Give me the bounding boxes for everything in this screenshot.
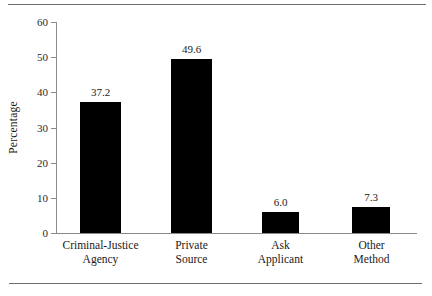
y-tick-label-0: 0 <box>43 228 49 239</box>
x-category-label-2: Ask Applicant <box>230 238 331 266</box>
bar-value-2: 6.0 <box>274 197 288 208</box>
y-axis-line <box>56 22 57 233</box>
bar-criminal-justice-agency: 37.2 <box>80 102 121 233</box>
x-category-label-0: Criminal-Justice Agency <box>50 238 151 266</box>
y-tick-label-20: 20 <box>37 157 48 168</box>
bar-value-1: 49.6 <box>182 44 201 55</box>
y-tick-label-60: 60 <box>37 17 48 28</box>
y-tick-label-10: 10 <box>37 192 48 203</box>
x-category-label-1: Private Source <box>141 238 242 266</box>
top-horizontal-rule <box>8 4 426 5</box>
x-category-line-2-1: Ask <box>230 238 331 252</box>
x-category-line-1-2: Source <box>141 252 242 266</box>
x-category-label-3: Other Method <box>321 238 422 266</box>
x-category-line-0-2: Agency <box>50 252 151 266</box>
bar-ask-applicant: 6.0 <box>262 212 299 233</box>
x-axis-line <box>56 233 417 234</box>
x-category-line-3-1: Other <box>321 238 422 252</box>
bar-private-source: 49.6 <box>171 59 212 233</box>
bar-value-3: 7.3 <box>364 192 378 203</box>
plot-area: 0 10 20 30 40 50 60 37.2 49.6 6.0 7.3 Cr… <box>56 22 417 233</box>
x-category-line-0-1: Criminal-Justice <box>50 238 151 252</box>
bottom-horizontal-rule <box>9 283 422 284</box>
y-tick-label-50: 50 <box>37 52 48 63</box>
x-category-line-1-1: Private <box>141 238 242 252</box>
x-category-line-3-2: Method <box>321 252 422 266</box>
y-tick-label-40: 40 <box>37 87 48 98</box>
bar-other-method: 7.3 <box>352 207 390 233</box>
y-axis-title: Percentage <box>6 22 20 233</box>
bar-value-0: 37.2 <box>91 87 110 98</box>
y-tick-label-30: 30 <box>37 122 48 133</box>
x-category-line-2-2: Applicant <box>230 252 331 266</box>
